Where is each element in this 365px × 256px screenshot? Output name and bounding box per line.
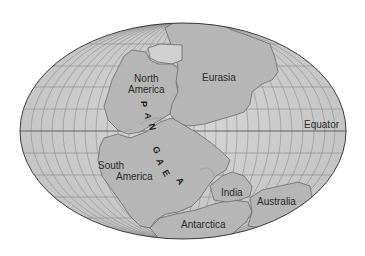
pangaea-letter-2: A — [143, 113, 153, 120]
label-south-america-line1: South — [98, 160, 153, 171]
label-north-america-line2: America — [128, 84, 165, 95]
label-north-america: North America — [128, 73, 165, 95]
label-india: India — [221, 187, 243, 198]
label-north-america-line1: North — [128, 73, 165, 84]
label-australia: Australia — [257, 196, 296, 207]
pangaea-letter-1: P — [139, 101, 149, 107]
label-antarctica: Antarctica — [181, 219, 225, 230]
label-eurasia: Eurasia — [202, 72, 236, 83]
pangaea-map: North America Eurasia South America Indi… — [0, 0, 365, 256]
graticule — [0, 20, 365, 242]
label-south-america: South America — [98, 160, 153, 182]
label-equator: Equator — [304, 119, 339, 130]
label-south-america-line2: America — [98, 171, 153, 182]
